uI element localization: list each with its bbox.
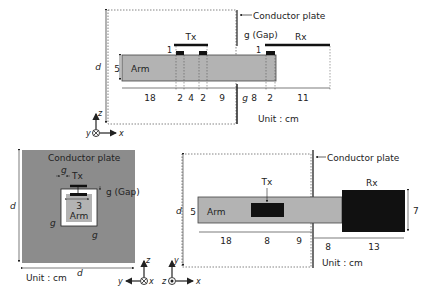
side-axis-x: x: [195, 277, 201, 286]
dim-2a: 2: [177, 93, 183, 103]
tx-pad-left: [176, 51, 184, 55]
front-view-diagram: Conductor plate 3 Arm g Tx g (Gap) g g d…: [10, 150, 154, 286]
tx-offset-label: 1: [167, 46, 172, 55]
side-rx-label: Rx: [366, 178, 378, 188]
side-arm-label: Arm: [207, 207, 225, 217]
g-right-label: g: [92, 230, 98, 240]
side-rx: [342, 190, 405, 232]
rx-pad: [266, 51, 275, 55]
axis-x: x: [118, 129, 124, 138]
d-label: d: [95, 62, 101, 72]
dim-11: 11: [297, 93, 308, 103]
gap-label: g (Gap): [244, 30, 278, 40]
axis-z: z: [97, 109, 103, 118]
rx-label: Rx: [295, 32, 307, 42]
front-axis-x: x: [148, 277, 154, 286]
top-view-diagram: d Conductor plate g (Gap) Arm 5 Tx 1 Rx …: [85, 10, 330, 138]
dim-2b: 2: [200, 93, 206, 103]
side-dim-8a: 8: [264, 236, 270, 246]
side-dim-13: 13: [368, 242, 379, 252]
g-top-label: g: [61, 165, 67, 175]
front-d-vertical-label: d: [10, 201, 16, 211]
front-tx-label: Tx: [71, 171, 83, 181]
front-conductor-plate-label: Conductor plate: [48, 153, 121, 163]
side-dim-8b: 8: [325, 242, 331, 252]
axes-indicator: z x y: [85, 109, 124, 138]
side-dim-18: 18: [220, 236, 232, 246]
side-tx: [251, 203, 284, 217]
arm-label: Arm: [131, 64, 149, 74]
dim-8: 8: [251, 93, 257, 103]
side-rx-height-label: 7: [413, 206, 419, 216]
dim-9: 9: [219, 93, 225, 103]
g-left-label: g: [50, 218, 56, 228]
arm-height-label: 5: [114, 64, 120, 74]
side-arm-height-label: 5: [190, 207, 196, 217]
front-axis-y: y: [117, 277, 123, 286]
side-unit-label: Unit : cm: [322, 258, 363, 268]
conductor-plate-label: Conductor plate: [253, 11, 326, 21]
axis-y: y: [85, 129, 91, 138]
tx-pad-right: [199, 51, 207, 55]
dim-18: 18: [144, 93, 156, 103]
side-tx-label: Tx: [261, 177, 273, 187]
arm-width-label: 3: [76, 201, 82, 211]
dim-2c: 2: [267, 93, 273, 103]
side-axes-indicator: y z x: [161, 256, 201, 286]
front-gap-label: g (Gap): [106, 187, 140, 197]
side-view-diagram: d Conductor plate Arm 5 Tx Rx 7 18 8 9 8…: [161, 150, 419, 286]
rx-offset-label: 1: [256, 46, 261, 55]
side-conductor-plate-label: Conductor plate: [327, 153, 400, 163]
side-axis-y: y: [173, 256, 179, 265]
dim-4: 4: [188, 93, 194, 103]
side-dim-9: 9: [296, 236, 302, 246]
g-bottom-label: g: [242, 93, 248, 103]
front-tx-pads: [70, 193, 87, 196]
side-axis-z: z: [161, 277, 167, 286]
unit-label: Unit : cm: [258, 114, 299, 124]
side-d-label: d: [176, 206, 182, 216]
tx-label: Tx: [185, 32, 197, 42]
front-unit-label: Unit : cm: [26, 273, 67, 283]
front-axis-z: z: [145, 256, 151, 265]
front-arm-label: Arm: [70, 211, 88, 221]
front-d-horizontal-label: d: [77, 268, 83, 278]
